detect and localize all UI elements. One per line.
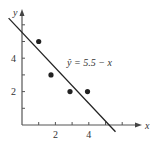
- x-tick-label-4: 4: [86, 129, 91, 140]
- scatter-plot: 2 4 2 4 y x ŷ = 5.5 − x: [0, 0, 157, 147]
- data-point: [67, 89, 72, 94]
- y-tick-label-4: 4: [11, 53, 16, 64]
- data-point: [85, 89, 90, 94]
- x-axis-arrow-icon: [135, 123, 142, 128]
- y-axis-label: y: [12, 7, 18, 18]
- axes: [22, 14, 136, 125]
- y-tick-label-2: 2: [11, 86, 16, 97]
- data-point: [36, 39, 41, 44]
- y-axis-arrow-icon: [20, 9, 25, 16]
- equation-label: ŷ = 5.5 − x: [66, 57, 112, 68]
- data-point: [48, 72, 53, 77]
- x-axis-label: x: [144, 120, 150, 131]
- x-tick-label-2: 2: [53, 129, 58, 140]
